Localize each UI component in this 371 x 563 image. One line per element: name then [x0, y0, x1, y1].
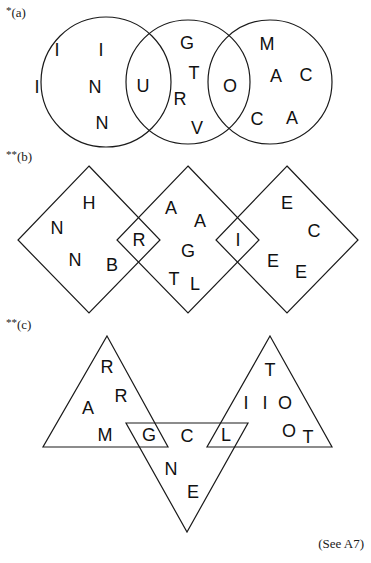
letter-a: A — [82, 398, 94, 418]
letter-t: T — [189, 63, 200, 83]
puzzle-b-diamonds: HNNBRAAGTLIECEE — [18, 166, 358, 313]
letter-n: N — [89, 77, 102, 97]
letter-a: A — [194, 211, 206, 231]
letter-g: G — [181, 241, 195, 261]
letter-h: H — [83, 193, 96, 213]
puzzle-b-letters: HNNBRAAGTLIECEE — [51, 193, 321, 294]
letter-n: N — [96, 113, 109, 133]
footnote-see-a7: (See A7) — [318, 536, 364, 551]
section-label-a: *(a) — [6, 4, 26, 20]
letter-a: A — [165, 198, 177, 218]
letter-g: G — [180, 33, 194, 53]
letter-r: R — [101, 357, 114, 377]
letter-i: I — [235, 230, 240, 250]
letter-e: E — [295, 262, 307, 282]
letter-i: I — [34, 77, 39, 97]
letter-l: L — [190, 274, 200, 294]
letter-a: A — [270, 66, 282, 86]
letter-o: O — [278, 393, 292, 413]
section-label-c: **(c) — [6, 316, 31, 332]
letter-r: R — [174, 89, 187, 109]
letter-i: I — [54, 40, 59, 60]
letter-i: I — [243, 393, 248, 413]
letter-m: M — [260, 34, 275, 54]
letter-c: C — [308, 221, 321, 241]
letter-n: N — [51, 218, 64, 238]
puzzle-c-letters: RRAMGCLTIIOOTNE — [82, 357, 314, 502]
letter-e: E — [187, 482, 199, 502]
letter-i: I — [262, 393, 267, 413]
letter-e: E — [267, 251, 279, 271]
letter-r: R — [115, 386, 128, 406]
letter-v: V — [191, 118, 203, 138]
section-label-b: **(b) — [6, 148, 32, 164]
letter-t: T — [169, 269, 180, 289]
letter-o: O — [223, 76, 237, 96]
letter-c: C — [300, 65, 313, 85]
letter-i: I — [98, 40, 103, 60]
letter-n: N — [69, 250, 82, 270]
letter-u: U — [137, 76, 150, 96]
letter-o: O — [282, 421, 296, 441]
letter-b: B — [106, 255, 118, 275]
puzzle-c-triangles: RRAMGCLTIIOOTNE — [43, 336, 332, 532]
letter-c: C — [251, 109, 264, 129]
letter-t: T — [265, 360, 276, 380]
puzzle-page: *(a)**(b)**(c) IIINNUGTRVOMACCA HNNBRAAG… — [0, 0, 371, 563]
puzzle-a-circles: IIINNUGTRVOMACCA — [34, 17, 332, 147]
letter-r: R — [133, 230, 146, 250]
letter-m: M — [98, 425, 113, 445]
letter-e: E — [281, 193, 293, 213]
letter-n: N — [165, 459, 178, 479]
letter-t: T — [303, 427, 314, 447]
letter-c: C — [181, 426, 194, 446]
puzzle-a-letters: IIINNUGTRVOMACCA — [34, 33, 312, 138]
letter-g: G — [142, 425, 156, 445]
letter-a: A — [286, 108, 298, 128]
puzzle-labels: *(a)**(b)**(c) — [6, 4, 32, 332]
letter-l: L — [221, 425, 231, 445]
